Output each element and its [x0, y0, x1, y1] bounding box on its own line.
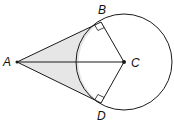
label-A: A: [2, 55, 11, 69]
point-A: [16, 61, 19, 64]
label-C: C: [131, 56, 140, 70]
segment-DC: [101, 62, 124, 103]
point-C: [122, 60, 126, 64]
label-B: B: [98, 3, 106, 17]
geometry-diagram: A B C D: [0, 0, 174, 126]
segment-BC: [101, 22, 124, 62]
label-D: D: [97, 109, 106, 123]
